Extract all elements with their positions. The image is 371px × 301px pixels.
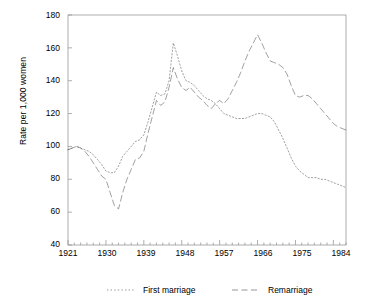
x-tick-label-1984: 1984 (324, 249, 358, 258)
y-tick-label-80: 80 (34, 174, 60, 183)
chart-figure: Rate per 1,000 women 180 160 140 120 100… (0, 0, 371, 301)
series-line-first-marriage (68, 43, 346, 188)
y-axis-ticks (68, 15, 72, 245)
y-tick-label-60: 60 (34, 207, 60, 216)
x-tick-label-1930: 1930 (90, 249, 124, 258)
x-tick-label-1921: 1921 (51, 249, 85, 258)
legend-label-first-marriage: First marriage (143, 285, 195, 295)
x-tick-label-1939: 1939 (129, 249, 163, 258)
y-tick-label-40: 40 (34, 240, 60, 249)
data-series-group (68, 35, 346, 209)
y-tick-label-180: 180 (34, 11, 60, 20)
y-tick-label-120: 120 (34, 109, 60, 118)
y-tick-label-100: 100 (34, 141, 60, 150)
y-tick-label-140: 140 (34, 76, 60, 85)
x-tick-label-1948: 1948 (168, 249, 202, 258)
plot-frame (68, 15, 346, 245)
series-line-remarriage (68, 35, 346, 209)
x-tick-label-1957: 1957 (207, 249, 241, 258)
y-tick-label-160: 160 (34, 44, 60, 53)
x-axis-ticks (68, 240, 346, 245)
legend-label-remarriage: Remarriage (268, 285, 312, 295)
x-tick-label-1975: 1975 (285, 249, 319, 258)
x-tick-label-1966: 1966 (246, 249, 280, 258)
y-axis-title: Rate per 1,000 women (18, 16, 28, 186)
